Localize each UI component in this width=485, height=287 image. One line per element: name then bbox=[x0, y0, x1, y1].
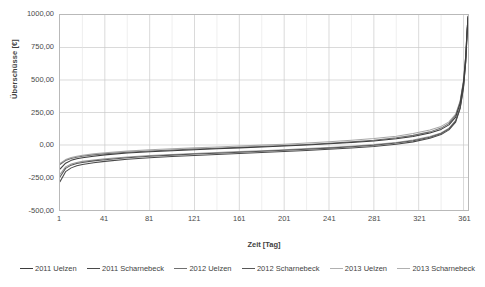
y-axis-tick-labels: 1000,00750,00500,00250,000,00-250,00-500… bbox=[6, 0, 54, 287]
x-axis-tick-label: 121 bbox=[188, 214, 201, 223]
legend-label: 2012 Scharnebeck bbox=[257, 264, 320, 273]
y-axis-tick-label: -250,00 bbox=[8, 174, 54, 182]
x-axis-tick-label: 321 bbox=[413, 214, 426, 223]
legend-line-swatch bbox=[242, 268, 255, 269]
chart-container: Überschüsse [€] 1000,00750,00500,00250,0… bbox=[0, 0, 485, 287]
x-axis-tick-label: 201 bbox=[278, 214, 291, 223]
plot-area bbox=[59, 14, 469, 211]
legend-line-swatch bbox=[20, 268, 33, 269]
x-axis-title: Zeit [Tag] bbox=[59, 240, 469, 249]
x-axis-tick-label: 1 bbox=[57, 214, 61, 223]
legend-label: 2011 Scharnebeck bbox=[102, 264, 164, 273]
x-axis-tick-labels: 14181121161201241281321361 bbox=[59, 214, 469, 228]
x-axis-tick-label: 41 bbox=[100, 214, 108, 223]
legend-line-swatch bbox=[330, 268, 343, 269]
x-axis-tick-label: 241 bbox=[323, 214, 336, 223]
y-axis-tick-label: -500,00 bbox=[8, 207, 54, 215]
legend-item[interactable]: 2013 Uelzen bbox=[330, 264, 387, 273]
y-axis-tick-label: 1000,00 bbox=[8, 10, 54, 18]
legend-item[interactable]: 2011 Uelzen bbox=[20, 264, 77, 273]
legend-label: 2013 Uelzen bbox=[345, 264, 387, 273]
x-axis-tick-label: 281 bbox=[368, 214, 381, 223]
legend-item[interactable]: 2012 Uelzen bbox=[174, 264, 231, 273]
legend-line-swatch bbox=[87, 268, 100, 269]
y-axis-tick-label: 0,00 bbox=[8, 141, 54, 149]
legend-label: 2012 Uelzen bbox=[189, 264, 231, 273]
legend-item[interactable]: 2011 Scharnebeck bbox=[87, 264, 164, 273]
y-axis-tick-label: 750,00 bbox=[8, 43, 54, 51]
legend-item[interactable]: 2012 Scharnebeck bbox=[242, 264, 320, 273]
legend-label: 2011 Uelzen bbox=[35, 264, 77, 273]
x-axis-tick-label: 81 bbox=[145, 214, 153, 223]
x-axis-tick-label: 161 bbox=[233, 214, 246, 223]
legend-line-swatch bbox=[397, 268, 410, 269]
x-axis-tick-label: 361 bbox=[458, 214, 471, 223]
legend-item[interactable]: 2013 Scharnebeck bbox=[397, 264, 475, 273]
legend-label: 2013 Scharnebeck bbox=[412, 264, 475, 273]
y-axis-tick-label: 500,00 bbox=[8, 76, 54, 84]
chart-svg bbox=[60, 15, 468, 210]
legend-line-swatch bbox=[174, 268, 187, 269]
chart-legend: 2011 Uelzen2011 Scharnebeck2012 Uelzen20… bbox=[20, 261, 475, 275]
y-axis-tick-label: 250,00 bbox=[8, 109, 54, 117]
